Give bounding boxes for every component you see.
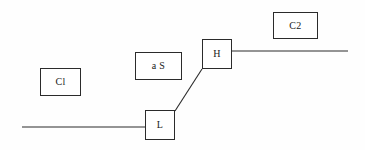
node-box-as: a S (135, 52, 182, 80)
node-label-c2: C2 (289, 21, 301, 31)
node-label-h: H (213, 49, 221, 59)
node-box-c2: C2 (273, 12, 318, 39)
node-label-l: L (157, 120, 163, 130)
node-box-l: L (145, 110, 175, 140)
node-box-h: H (202, 39, 232, 69)
node-label-as: a S (152, 61, 165, 71)
node-box-c1: Cl (40, 68, 81, 96)
diagram-canvas: Cl a S H L C2 (0, 0, 365, 150)
node-label-c1: Cl (55, 77, 65, 87)
